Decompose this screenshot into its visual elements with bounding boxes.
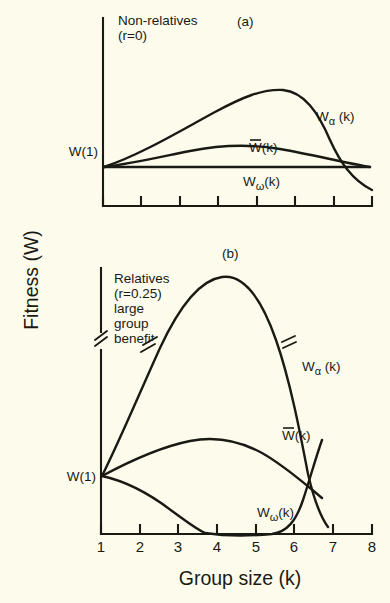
svg-text:Wω(k): Wω(k) bbox=[243, 174, 280, 192]
panel-b-tag: (b) bbox=[222, 246, 239, 261]
panel-a-caption-line2: (r=0) bbox=[118, 28, 147, 43]
xtick-label-8: 8 bbox=[368, 538, 376, 555]
panel-a-alpha-w: W bbox=[316, 109, 329, 124]
panel-b-caption-line1: Relatives bbox=[114, 271, 170, 286]
panel-a-mean-w: W bbox=[249, 140, 262, 155]
panel-a-curve-w-alpha bbox=[104, 90, 372, 190]
svg-text:W(k): W(k) bbox=[249, 140, 278, 155]
panel-b-label-w-alpha: Wα (k) bbox=[302, 359, 341, 377]
xtick-label-3: 3 bbox=[174, 538, 182, 555]
panel-b-mean-w: W bbox=[282, 428, 295, 443]
panel-b-mean-suffix: (k) bbox=[295, 428, 311, 443]
panel-b: 1 2 3 4 5 6 7 8 (b) Relatives (r=0.25) l… bbox=[67, 246, 376, 555]
panel-b-baseline-label: W(1) bbox=[67, 469, 96, 484]
panel-a-caption-line1: Non-relatives bbox=[118, 13, 198, 28]
xtick-label-7: 7 bbox=[329, 538, 337, 555]
panel-a-x-ticks bbox=[103, 196, 372, 206]
panel-a-omega-w: W bbox=[243, 174, 256, 189]
xtick-label-4: 4 bbox=[213, 538, 221, 555]
panel-b-curve-break-right bbox=[282, 336, 296, 352]
xtick-label-1: 1 bbox=[97, 538, 105, 555]
panel-b-curve-w-omega bbox=[102, 440, 322, 535]
scientific-figure: Non-relatives (r=0) (a) W(1) Wα (k) W(k)… bbox=[0, 0, 390, 603]
x-axis-title: Group size (k) bbox=[179, 567, 301, 589]
panel-a: Non-relatives (r=0) (a) W(1) Wα (k) W(k)… bbox=[69, 13, 372, 206]
panel-b-alpha-suffix: (k) bbox=[321, 359, 341, 374]
panel-a-label-w-omega: Wω(k) bbox=[243, 174, 280, 192]
xtick-label-5: 5 bbox=[252, 538, 260, 555]
svg-text:W(k): W(k) bbox=[282, 428, 311, 443]
panel-a-alpha-suffix: (k) bbox=[335, 109, 355, 124]
xtick-label-2: 2 bbox=[136, 538, 144, 555]
y-axis-title: Fitness (W) bbox=[20, 230, 42, 330]
panel-a-omega-suffix: (k) bbox=[264, 174, 280, 189]
svg-text:Wω(k): Wω(k) bbox=[257, 505, 294, 523]
figure-root: Non-relatives (r=0) (a) W(1) Wα (k) W(k)… bbox=[0, 0, 390, 603]
xtick-label-6: 6 bbox=[290, 538, 298, 555]
panel-b-label-w-mean: W(k) bbox=[282, 428, 311, 443]
svg-text:Wα (k): Wα (k) bbox=[302, 359, 341, 377]
panel-a-label-w-mean: W(k) bbox=[249, 140, 278, 155]
panel-a-tag: (a) bbox=[237, 14, 254, 29]
panel-b-caption: Relatives (r=0.25) large group benefit bbox=[114, 271, 170, 346]
panel-b-curve-w-mean bbox=[102, 439, 322, 498]
panel-b-caption-line2: (r=0.25) bbox=[114, 286, 162, 301]
panel-b-label-w-omega: Wω(k) bbox=[257, 505, 294, 523]
panel-a-baseline-label: W(1) bbox=[69, 144, 98, 159]
panel-b-caption-line4: group bbox=[114, 316, 149, 331]
panel-b-alpha-w: W bbox=[302, 359, 315, 374]
panel-b-caption-line3: large bbox=[114, 301, 144, 316]
panel-b-omega-suffix: (k) bbox=[278, 505, 294, 520]
panel-b-caption-line5: benefit bbox=[114, 331, 155, 346]
panel-a-mean-suffix: (k) bbox=[262, 140, 278, 155]
panel-b-y-axis-break bbox=[95, 331, 107, 349]
panel-b-x-tick-labels: 1 2 3 4 5 6 7 8 bbox=[97, 538, 376, 555]
panel-b-omega-w: W bbox=[257, 505, 270, 520]
panel-b-x-ticks bbox=[101, 524, 372, 534]
